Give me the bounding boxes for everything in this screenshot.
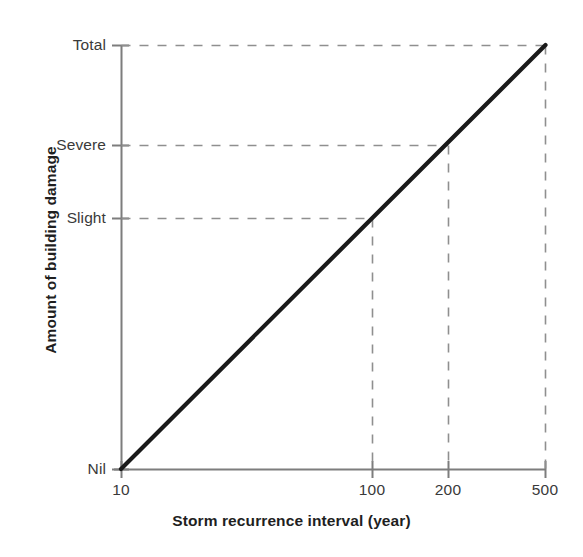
x-tick-label-100: 100 xyxy=(359,482,385,498)
data-series-line xyxy=(121,45,546,469)
x-axis-title: Storm recurrence interval (year) xyxy=(0,512,583,530)
x-tick-label-500: 500 xyxy=(532,482,558,498)
y-tick-label-slight: Slight xyxy=(67,210,106,226)
y-axis-title: Amount of building damage xyxy=(34,30,68,470)
y-tick-label-total: Total xyxy=(73,37,106,53)
y-tick-label-nil: Nil xyxy=(88,461,106,477)
x-tick-label-200: 200 xyxy=(435,482,461,498)
x-tick-label-10: 10 xyxy=(112,482,130,498)
damage-vs-recurrence-chart: Total Severe Slight Nil 10 100 200 500 S… xyxy=(0,0,583,557)
